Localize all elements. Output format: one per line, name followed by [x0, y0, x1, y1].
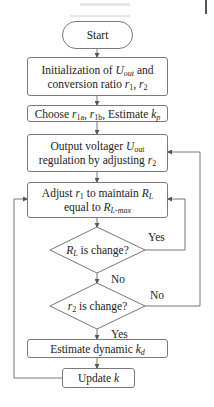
- adjust-line-1: Adjust r1 to maintain RL: [42, 186, 153, 200]
- decision-r2-changed: r2 is change?: [50, 299, 145, 313]
- start-label: Start: [87, 28, 109, 42]
- start-terminal: Start: [62, 21, 133, 49]
- init-step: Initialization of Uout and conversion ra…: [27, 57, 168, 96]
- update-k-step: Update k: [62, 368, 135, 388]
- adjust-line-2: equal to RL-max: [64, 200, 131, 214]
- decision-rl-changed: RL is change?: [50, 243, 145, 257]
- estimate-text: Estimate dynamic kd: [50, 342, 145, 356]
- flowchart: Start Initialization of Uout and convers…: [0, 0, 214, 407]
- output-line-2: regulation by adjusting r2: [39, 153, 156, 167]
- output-regulation-step: Output voltager Uout regulation by adjus…: [27, 134, 168, 172]
- output-line-1: Output voltager Uout: [51, 139, 145, 153]
- decision2-no-label: No: [150, 289, 164, 301]
- init-line-2: conversion ratio r1, r2: [47, 77, 147, 91]
- update-text: Update k: [78, 371, 119, 385]
- choose-step: Choose r1a, r1b, Estimate kp: [27, 105, 168, 122]
- init-line-1: Initialization of Uout and: [41, 63, 153, 77]
- estimate-kd-step: Estimate dynamic kd: [27, 339, 168, 358]
- adjust-r1-step: Adjust r1 to maintain RL equal to RL-max: [27, 182, 168, 218]
- choose-text: Choose r1a, r1b, Estimate kp: [35, 107, 161, 121]
- decision1-yes-label: Yes: [148, 231, 165, 243]
- decision1-no-label: No: [111, 273, 125, 285]
